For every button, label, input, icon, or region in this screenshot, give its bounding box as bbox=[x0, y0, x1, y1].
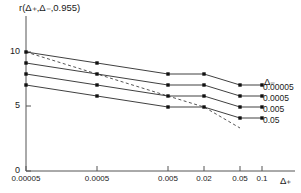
data-point bbox=[95, 61, 98, 64]
y-tick-label-5: 5 bbox=[2, 100, 20, 110]
data-point bbox=[202, 72, 205, 75]
data-point bbox=[24, 50, 27, 53]
data-point bbox=[166, 72, 169, 75]
data-point bbox=[238, 83, 241, 86]
data-point bbox=[202, 105, 205, 108]
data-point bbox=[166, 83, 169, 86]
x-tick-label-5: 0.05 bbox=[232, 174, 248, 183]
plot-area bbox=[0, 0, 301, 193]
y-tick-label-10: 10 bbox=[2, 46, 20, 56]
y-axis-ticks bbox=[26, 52, 31, 171]
legend-entry-1: 0.00005 bbox=[263, 82, 294, 92]
data-point bbox=[95, 72, 98, 75]
data-point bbox=[24, 61, 27, 64]
x-tick-label-1: 0.00005 bbox=[12, 174, 41, 183]
data-point bbox=[202, 94, 205, 97]
chart-figure: r(Δ₊,Δ₋,0.955) bbox=[0, 0, 301, 193]
x-tick-label-6: 0.1 bbox=[256, 174, 267, 183]
x-tick-label-2: 0.0005 bbox=[85, 174, 109, 183]
data-point bbox=[95, 83, 98, 86]
line-series-4 bbox=[26, 85, 262, 118]
legend-entry-3: 0.005 bbox=[263, 104, 284, 114]
axis-lines bbox=[26, 16, 295, 171]
data-point bbox=[238, 94, 241, 97]
data-point bbox=[95, 94, 98, 97]
x-tick-label-3: 0.005 bbox=[158, 174, 178, 183]
legend-entry-4: 0.05 bbox=[263, 115, 280, 125]
x-axis-ticks bbox=[26, 166, 262, 171]
x-tick-label-4: 0.02 bbox=[196, 174, 212, 183]
data-point bbox=[24, 83, 27, 86]
data-point bbox=[202, 83, 205, 86]
x-axis-label: Δ₊ bbox=[280, 175, 291, 186]
legend-entry-2: 0.0005 bbox=[263, 93, 289, 103]
data-point bbox=[24, 72, 27, 75]
data-point bbox=[238, 105, 241, 108]
data-point bbox=[238, 116, 241, 119]
data-point bbox=[166, 94, 169, 97]
data-point bbox=[166, 105, 169, 108]
